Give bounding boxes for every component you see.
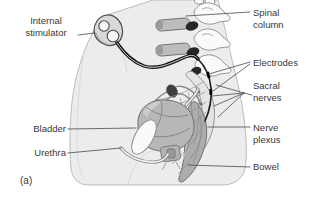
stimulator-device <box>94 15 123 46</box>
panel-label: (a) <box>20 175 32 186</box>
vertebral-body-end-shade <box>157 21 163 30</box>
label-nerve-plexus-line2: plexus <box>253 134 281 145</box>
label-spinal-column-line1: Spinal <box>253 7 279 18</box>
vertebral-body-end-shade <box>157 46 163 55</box>
label-nerve-plexus-line1: Nerve <box>253 122 278 133</box>
label-spinal-column-line2: column <box>253 19 284 30</box>
label-bowel: Bowel <box>253 161 279 172</box>
label-internal-stimulator-line1: Internal <box>30 15 62 26</box>
electrode-contact <box>208 72 210 78</box>
label-sacral-nerves-line2: nerves <box>253 92 282 103</box>
stimulator-port <box>107 30 119 42</box>
label-bladder: Bladder <box>33 123 66 134</box>
vertebra-top-fragment <box>195 0 204 4</box>
diagram-canvas: Internal stimulator Spinal column Electr… <box>0 0 319 198</box>
label-internal-stimulator-line2: stimulator <box>25 27 66 38</box>
anatomical-diagram-sacral-stimulator: Internal stimulator Spinal column Electr… <box>0 0 319 198</box>
label-electrodes: Electrodes <box>253 57 298 68</box>
label-urethra: Urethra <box>34 147 66 158</box>
leader-sacral-nerves-stub <box>244 93 252 95</box>
stimulator-port <box>99 21 109 31</box>
label-sacral-nerves-line1: Sacral <box>253 80 280 91</box>
